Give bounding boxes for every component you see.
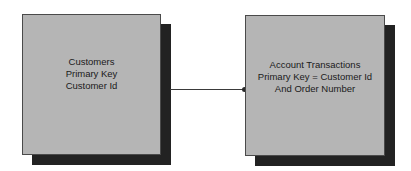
customers-entity-title: Customers [69, 56, 115, 68]
customers-entity-key-label: Primary Key [66, 68, 118, 80]
customers-entity-key-value: Customer Id [66, 80, 118, 92]
account-transactions-entity-box[interactable]: Account Transactions Primary Key = Custo… [245, 15, 385, 156]
account-transactions-entity-key-continued: And Order Number [275, 83, 355, 95]
account-transactions-entity-key: Primary Key = Customer Id [258, 71, 372, 83]
relationship-connector-line [170, 89, 245, 90]
account-transactions-entity-title: Account Transactions [270, 59, 361, 71]
customers-entity-box[interactable]: Customers Primary Key Customer Id [22, 14, 161, 155]
